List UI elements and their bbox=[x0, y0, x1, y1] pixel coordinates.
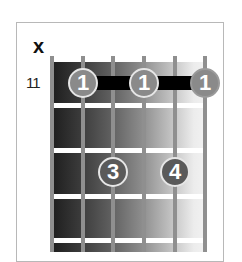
finger-dot: 1 bbox=[190, 68, 220, 98]
start-fret-label: 11 bbox=[26, 75, 40, 91]
fret-line-2 bbox=[52, 148, 206, 153]
muted-string-marker: x bbox=[33, 36, 44, 56]
fret-line-4 bbox=[52, 238, 206, 243]
finger-dot: 3 bbox=[98, 157, 128, 187]
fret-line-1 bbox=[52, 103, 206, 108]
finger-dot: 4 bbox=[160, 157, 190, 187]
fret-line-3 bbox=[52, 194, 206, 199]
finger-dot: 1 bbox=[68, 68, 98, 98]
string-1 bbox=[50, 56, 54, 252]
finger-dot: 1 bbox=[129, 68, 159, 98]
